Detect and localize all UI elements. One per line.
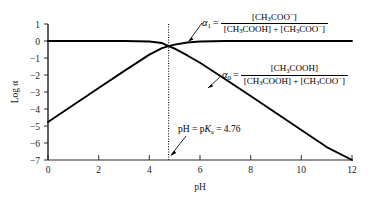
alpha0-definition-annotation: α0= [CH3COOH] [CH3COOH] + [CH3COO−] (222, 64, 348, 87)
x-tick-label: 8 (248, 165, 253, 175)
alpha1-definition-annotation: α1= [CH3COO−] [CH3COOH] + [CH3COO−] (202, 12, 328, 35)
y-tick-label: −1 (30, 54, 40, 64)
x-tick-label: 6 (198, 165, 203, 175)
y-tick-label: 1 (35, 20, 40, 30)
x-tick-label: 0 (46, 165, 51, 175)
y-axis-ticks (44, 24, 48, 160)
x-tick-label: 12 (347, 165, 357, 175)
y-tick-label: −4 (30, 105, 40, 115)
pka-value: = 4.76 (214, 124, 241, 134)
chart-figure: 1 0 −1 −2 −3 −4 −5 −6 −7 0 2 4 6 8 (0, 0, 392, 202)
x-axis-ticks (48, 155, 352, 160)
y-tick-label: −7 (30, 156, 40, 166)
pka-leader-arrow (170, 136, 186, 156)
y-tick-label: −2 (30, 71, 40, 81)
x-axis-tick-labels: 0 2 4 6 8 10 12 (46, 165, 357, 175)
alpha1-fraction: [CH3COO−] [CH3COOH] + [CH3COO−] (221, 12, 328, 35)
x-tick-label: 10 (297, 165, 307, 175)
alpha0-denominator: [CH3COOH] + [CH3COO−] (241, 75, 348, 87)
alpha0-equals: = (231, 69, 241, 80)
alpha0-numerator: [CH3COOH] (241, 64, 348, 75)
y-axis-tick-labels: 1 0 −1 −2 −3 −4 −5 −6 −7 (30, 20, 40, 166)
alpha1-denominator: [CH3COOH] + [CH3COO−] (221, 23, 328, 35)
alpha0-fraction: [CH3COOH] [CH3COOH] + [CH3COO−] (241, 64, 348, 87)
alpha0-leader-arrow (208, 76, 221, 88)
x-axis-title: pH (194, 182, 206, 192)
y-tick-label: −5 (30, 122, 40, 132)
pka-annotation: pH = pKa = 4.76 (178, 125, 240, 136)
y-tick-label: 0 (35, 37, 40, 47)
log-alpha-vs-ph-plot: 1 0 −1 −2 −3 −4 −5 −6 −7 0 2 4 6 8 (0, 0, 392, 202)
alpha0-symbol: α0 (222, 69, 231, 80)
pka-prefix: pH = p (178, 124, 204, 134)
y-tick-label: −6 (30, 139, 40, 149)
y-tick-label: −3 (30, 88, 40, 98)
curve-alpha-0 (48, 41, 352, 160)
y-axis-title: Log α (10, 81, 20, 104)
x-tick-label: 2 (96, 165, 101, 175)
alpha1-symbol: α1 (202, 17, 211, 28)
alpha1-leader-arrow (189, 23, 203, 42)
alpha1-equals: = (211, 17, 221, 28)
alpha1-numerator: [CH3COO−] (221, 12, 328, 23)
x-tick-label: 4 (147, 165, 152, 175)
